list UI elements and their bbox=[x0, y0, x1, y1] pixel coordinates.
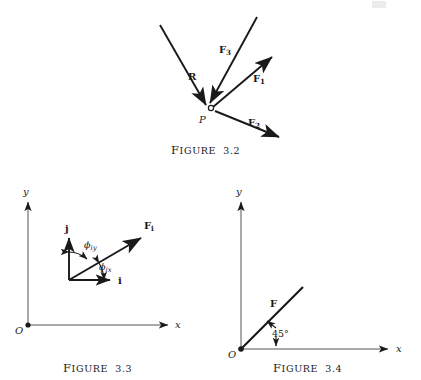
angle-arc-phi-iy bbox=[69, 252, 87, 259]
vector-F bbox=[241, 287, 303, 349]
vector-F2 bbox=[215, 111, 279, 137]
figure-page: R F3 F1 F2 P FIGURE 3.2 y x O bbox=[0, 0, 421, 380]
figure-3-4-caption-lead: F bbox=[273, 361, 282, 375]
figure-3-4-caption-number: 3.4 bbox=[325, 363, 342, 374]
label-phi-ix: ϕix bbox=[99, 261, 112, 274]
label-F1: F1 bbox=[253, 73, 265, 86]
origin-label: O bbox=[228, 349, 236, 360]
axis-x-label: x bbox=[396, 343, 402, 354]
figure-3-2-caption-lead: F bbox=[171, 143, 180, 157]
point-P-marker bbox=[208, 105, 213, 110]
vector-R bbox=[160, 25, 206, 105]
figure-3-4-caption: FIGURE 3.4 bbox=[273, 361, 342, 375]
origin-dot bbox=[25, 322, 30, 327]
figure-3-3-caption-lead: F bbox=[63, 361, 72, 375]
label-point-P: P bbox=[198, 114, 206, 125]
label-F: F bbox=[270, 298, 277, 309]
figure-3-3-caption: FIGURE 3.3 bbox=[63, 361, 132, 375]
label-unit-j: j bbox=[64, 223, 69, 234]
axis-y-label: y bbox=[22, 186, 29, 197]
angle-leader-to-force bbox=[267, 321, 276, 328]
figure-3-3-diagram: y x O j i Fi ϕiy ϕix bbox=[0, 180, 211, 380]
origin-label: O bbox=[15, 325, 23, 336]
label-Fi: Fi bbox=[144, 220, 154, 233]
label-F3: F3 bbox=[219, 44, 231, 57]
axis-x-label: x bbox=[175, 319, 181, 330]
label-unit-i: i bbox=[118, 275, 122, 286]
label-angle-45: 45° bbox=[272, 328, 289, 339]
label-R: R bbox=[188, 71, 197, 82]
figure-3-2-caption-rest: IGURE bbox=[180, 145, 216, 156]
figure-3-2-caption-number: 3.2 bbox=[223, 145, 240, 156]
figure-3-2-diagram: R F3 F1 F2 P bbox=[0, 0, 421, 160]
label-phi-iy: ϕiy bbox=[84, 239, 97, 252]
figure-3-4-diagram: y x O F 45° bbox=[210, 180, 421, 380]
figure-3-3-caption-number: 3.3 bbox=[115, 363, 132, 374]
axis-y-label: y bbox=[235, 186, 242, 197]
figure-3-2-caption: FIGURE 3.2 bbox=[171, 143, 240, 157]
label-F2: F2 bbox=[248, 117, 260, 130]
figure-3-4-caption-rest: IGURE bbox=[282, 363, 318, 374]
figure-3-3-caption-rest: IGURE bbox=[72, 363, 108, 374]
